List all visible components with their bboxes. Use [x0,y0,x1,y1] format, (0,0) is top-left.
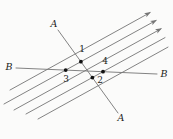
angle-number-label-4: 4 [102,56,108,66]
parallel-lines-angle-diagram: 1234AABB [0,0,173,139]
intersection-dot-3 [64,68,68,72]
label-a-top: A [50,18,58,29]
intersection-dot-1 [79,60,83,64]
angle-number-label-1: 1 [79,44,85,54]
parallel-line-4 [26,38,165,114]
label-b-right: B [160,68,168,79]
label-b-left: B [5,61,13,72]
angle-number-label-3: 3 [63,74,69,84]
intersection-dot-4 [101,70,105,74]
angle-number-label-2: 2 [97,75,103,85]
geometry-canvas: 1234AABB [0,0,173,139]
label-a-bottom: A [117,112,125,123]
parallel-line-3 [14,29,161,110]
intersection-dot-2 [91,76,95,80]
